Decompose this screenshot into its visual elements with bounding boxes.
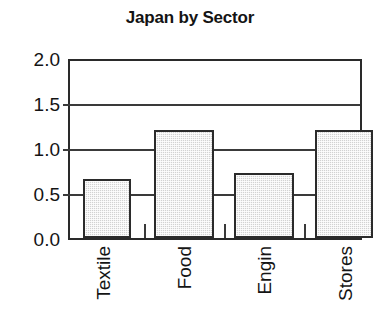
plot-area [68,59,362,240]
y-tick-1-0 [63,149,70,151]
x-category-label-engin: Engin [257,246,273,332]
x-category-label-food: Food [177,246,193,332]
x-tick-1 [144,224,146,238]
x-tick-2 [224,224,226,238]
chart-title: Japan by Sector [0,8,380,28]
gridline-1-5 [70,104,360,106]
y-tick-label-2: 1.0 [0,139,60,161]
y-tick-label-1: 0.5 [0,184,60,206]
y-tick-label-3: 1.5 [0,94,60,116]
bar-stores [315,130,373,238]
bar-textile [83,179,131,238]
y-tick-1-5 [63,104,70,106]
x-tick-3 [304,224,306,238]
y-tick-label-4: 2.0 [0,49,60,71]
bar-food [154,130,214,238]
x-category-label-textile: Textile [96,246,112,332]
bar-engin [234,173,294,238]
y-tick-label-0: 0.0 [0,229,60,251]
bar-chart: Japan by Sector 0.0 0.5 1.0 1.5 2.0 [0,0,380,332]
x-category-label-stores: Stores [338,246,354,332]
y-tick-0-5 [63,194,70,196]
